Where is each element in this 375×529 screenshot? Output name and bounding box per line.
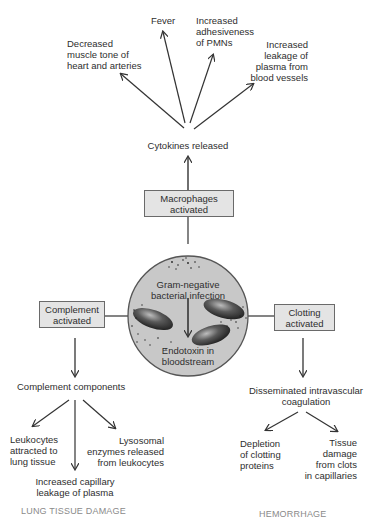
effect-leukocytes-attracted: Leukocytes attracted to lung tissue	[10, 434, 58, 467]
effect-increased-capillary-leakage: Increased capillary leakage of plasma	[22, 476, 128, 498]
cytokines-released-label: Cytokines released	[138, 140, 238, 151]
effect-depletion-clotting-proteins: Depletion of clotting proteins	[240, 438, 281, 471]
endotoxin-label: Endotoxin in bloodstream	[138, 345, 238, 367]
macrophages-activated-box: Macrophages activated	[144, 190, 234, 217]
dic-label: Disseminated intravascular coagulation	[246, 385, 366, 407]
complement-activated-box: Complement activated	[39, 301, 105, 328]
infection-label: Gram-negative bacterial infection	[138, 279, 238, 301]
arrow-to-leakage	[194, 84, 253, 129]
clotting-activated-box: Clotting activated	[274, 304, 335, 331]
complement-components-label: Complement components	[17, 381, 125, 392]
outcome-lung-tissue-damage: LUNG TISSUE DAMAGE	[21, 506, 126, 516]
effect-decreased-muscle-tone: Decreased muscle tone of heart and arter…	[67, 38, 141, 71]
effect-tissue-damage-clots: Tissue damage from clots in capillaries	[300, 437, 357, 481]
arrow-to-adhesiveness	[190, 55, 213, 123]
effect-lysosomal-enzymes: Lysosomal enzymes released from leukocyt…	[84, 435, 164, 468]
effect-increased-leakage: Increased leakage of plasma from blood v…	[250, 39, 308, 83]
effect-fever: Fever	[151, 15, 175, 26]
effect-increased-adhesiveness: Increased adhesiveness of PMNs	[196, 15, 254, 48]
outcome-hemorrhage: HEMORRHAGE	[259, 509, 327, 519]
arrow-to-fever	[163, 32, 185, 123]
